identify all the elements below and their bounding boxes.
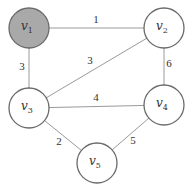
edge-weight-v1-v3: 3 — [19, 60, 25, 72]
edge-weight-v1-v2: 1 — [93, 13, 99, 25]
edge-weight-v2-v3: 3 — [87, 54, 93, 66]
node-v4: v4 — [144, 85, 184, 125]
edge-weight-v2-v4: 6 — [166, 57, 172, 69]
node-v2: v2 — [144, 8, 184, 48]
node-v1: v1 — [9, 8, 49, 48]
node-v5: v5 — [77, 143, 117, 183]
edge-weight-v3-v4: 4 — [93, 91, 99, 103]
edge-weight-v4-v5: 5 — [130, 134, 136, 146]
node-v3: v3 — [9, 88, 49, 128]
edge-weight-v3-v5: 2 — [56, 135, 62, 147]
weighted-graph: 1336425 v1v2v3v4v5 — [0, 0, 190, 191]
